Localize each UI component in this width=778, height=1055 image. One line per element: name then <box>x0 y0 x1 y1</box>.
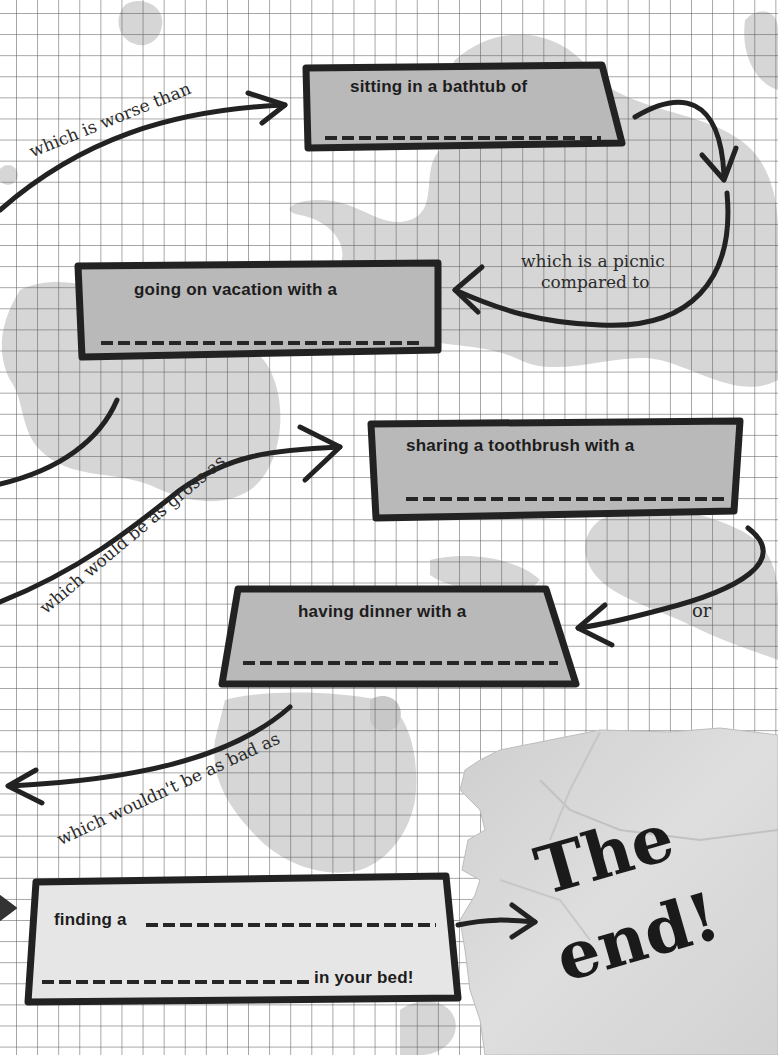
arrowhead-entry-icon <box>0 896 16 920</box>
prompt-box-bathtub: sitting in a bathtub of <box>300 60 630 155</box>
prompt-text: going on vacation with a <box>134 280 337 300</box>
arrowhead-left-icon <box>455 267 482 312</box>
prompt-box-dinner: having dinner with a <box>218 584 580 692</box>
fill-in-blank-bed-2[interactable] <box>42 980 310 984</box>
prompt-text: having dinner with a <box>298 602 466 622</box>
connector-or: or <box>692 600 711 621</box>
prompt-text-start: finding a <box>54 910 127 930</box>
connector-compared-to: compared to <box>541 272 649 292</box>
fill-in-blank-dinner[interactable] <box>243 661 558 665</box>
arrowhead-right-icon <box>300 427 340 480</box>
prompt-text: sharing a toothbrush with a <box>406 436 634 456</box>
box-shape <box>300 60 630 155</box>
box-shape <box>366 418 746 523</box>
mad-libs-flowchart-page: The end! which is worse than which is a … <box>0 0 778 1055</box>
prompt-text-end: in your bed! <box>314 968 414 988</box>
prompt-text: sitting in a bathtub of <box>350 77 527 97</box>
arrow-gross-as <box>0 447 340 602</box>
arrowhead-down-icon <box>702 148 736 180</box>
box-shape <box>74 260 444 365</box>
fill-in-blank-vacation[interactable] <box>101 341 424 345</box>
box-shape <box>218 584 580 692</box>
prompt-box-toothbrush: sharing a toothbrush with a <box>366 418 746 523</box>
arrow-or <box>578 528 763 628</box>
connector-which-is-a-picnic: which is a picnic <box>521 251 665 271</box>
prompt-box-bed: finding a in your bed! <box>24 872 464 1007</box>
prompt-box-vacation: going on vacation with a <box>74 260 444 365</box>
arrow-to-end <box>458 920 535 925</box>
fill-in-blank-bathtub[interactable] <box>325 136 601 140</box>
fill-in-blank-toothbrush[interactable] <box>406 497 726 501</box>
arrow-vacation-exit <box>0 400 117 484</box>
fill-in-blank-bed-1[interactable] <box>146 923 436 927</box>
